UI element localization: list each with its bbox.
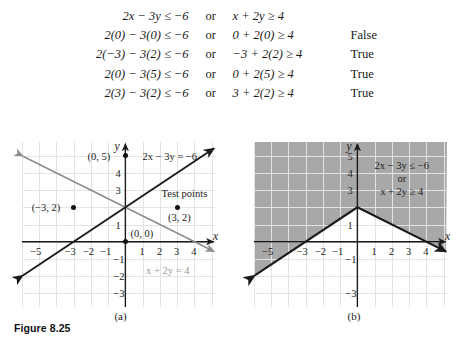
figure-panel-a: −5−3−2−11234431−1−2−3 (0, 5)(−3, 2)(0, 0…: [8, 128, 233, 318]
derivation-left-expression: 2x − 3y ≤ −6: [96, 6, 189, 25]
derivation-left-expression: 2(3) − 3(2) ≤ −6: [96, 84, 189, 103]
x-tick-1: 1: [140, 247, 145, 258]
derivation-connector: or: [189, 25, 233, 44]
x-tick--2: −2: [83, 247, 94, 258]
derivation-result: False: [351, 25, 377, 44]
x-tick-4: 4: [423, 247, 428, 258]
derivation-result: True: [351, 45, 377, 64]
x-tick-1: 1: [372, 247, 377, 258]
figure-caption: Figure 8.25: [14, 322, 71, 334]
x-tick--1: −1: [100, 247, 111, 258]
y-axis-label-a: y: [114, 140, 119, 152]
region-equation-block: 2x − 3y ≤ −6 or x + 2y ≥ 4: [375, 160, 429, 198]
derivation-right-expression: x + 2y ≥ 4: [233, 6, 351, 25]
point-label: (0, 5): [87, 152, 110, 163]
derivation-right-expression: 0 + 2(0) ≥ 4: [233, 25, 351, 44]
y-tick--2: −2: [113, 272, 124, 283]
figure-panel-b: −5−3−2−112345431−1−3 y x 2x − 3y ≤ −6 or…: [240, 128, 468, 318]
derivation-left-expression: 2(0) − 3(0) ≤ −6: [96, 25, 189, 44]
x-tick--5: −5: [30, 247, 41, 258]
y-tick--1: −1: [113, 255, 124, 266]
x-tick--3: −3: [65, 247, 76, 258]
y-tick-1: 1: [115, 221, 120, 232]
derivation-connector: or: [189, 84, 233, 103]
table-row: 2(0) − 3(0) ≤ −6 or 0 + 2(0) ≥ 4 False: [96, 25, 377, 44]
derivation-right-expression: 0 + 2(5) ≥ 4: [233, 64, 351, 83]
derivation-table-body: 2x − 3y ≤ −6 or x + 2y ≥ 4 2(0) − 3(0) ≤…: [96, 6, 377, 103]
derivation-table: 2x − 3y ≤ −6 or x + 2y ≥ 4 2(0) − 3(0) ≤…: [0, 6, 473, 103]
x-tick--3: −3: [297, 247, 308, 258]
x-axis-label-b: x: [445, 230, 450, 242]
y-tick-4: 4: [115, 169, 120, 180]
x-tick-3: 3: [406, 247, 411, 258]
derivation-result: True: [351, 84, 377, 103]
region-inequality-1: 2x − 3y ≤ −6: [375, 160, 429, 173]
equation-label-line2: x + 2y = 4: [146, 265, 189, 278]
y-axis-label-b: y: [346, 140, 351, 152]
point-label: (−3, 2): [32, 203, 61, 214]
x-tick--1: −1: [332, 247, 343, 258]
plot-area-a: −5−3−2−11234431−1−2−3 (0, 5)(−3, 2)(0, 0…: [22, 142, 215, 307]
derivation-connector: or: [189, 6, 233, 25]
point-label: (0, 0): [130, 229, 153, 240]
point-marker: [175, 205, 180, 210]
panel-b-caption: (b): [240, 310, 468, 322]
derivation-right-expression: 3 + 2(2) ≥ 4: [233, 84, 351, 103]
derivation-left-expression: 2(0) − 3(5) ≤ −6: [96, 64, 189, 83]
table-row: 2x − 3y ≤ −6 or x + 2y ≥ 4: [96, 6, 377, 25]
y-tick-5: 5: [347, 152, 352, 163]
table-row: 2(0) − 3(5) ≤ −6 or 0 + 2(5) ≥ 4 True: [96, 64, 377, 83]
equation-label-line1: 2x − 3y = −6: [143, 151, 198, 164]
panel-a-caption: (a): [8, 310, 233, 322]
y-tick--3: −3: [113, 289, 124, 300]
x-tick--2: −2: [315, 247, 326, 258]
y-tick-4: 4: [347, 169, 352, 180]
y-tick-3: 3: [347, 186, 352, 197]
derivation-left-expression: 2(−3) − 3(2) ≤ −6: [96, 45, 189, 64]
region-connector: or: [375, 173, 429, 186]
y-tick-3: 3: [115, 186, 120, 197]
y-tick-1: 1: [347, 221, 352, 232]
x-tick-2: 2: [389, 247, 394, 258]
point-marker: [71, 205, 76, 210]
x-tick-3: 3: [174, 247, 179, 258]
y-tick--3: −3: [345, 289, 356, 300]
derivation-connector: or: [189, 45, 233, 64]
plot-area-b: −5−3−2−112345431−1−3 y x 2x − 3y ≤ −6 or…: [254, 142, 447, 307]
x-tick-2: 2: [157, 247, 162, 258]
derivation-right-expression: −3 + 2(2) ≥ 4: [233, 45, 351, 64]
table-row: 2(−3) − 3(2) ≤ −6 or −3 + 2(2) ≥ 4 True: [96, 45, 377, 64]
table-row: 2(3) − 3(2) ≤ −6 or 3 + 2(2) ≥ 4 True: [96, 84, 377, 103]
x-tick-4: 4: [191, 247, 196, 258]
derivation-result: True: [351, 64, 377, 83]
y-tick--1: −1: [345, 255, 356, 266]
derivation-connector: or: [189, 64, 233, 83]
x-tick--5: −5: [262, 247, 273, 258]
derivation-result: [351, 6, 377, 25]
test-points-label: Test points: [162, 188, 208, 201]
region-inequality-2: x + 2y ≥ 4: [375, 186, 429, 199]
point-label: (3, 2): [168, 213, 191, 224]
x-axis-label-a: x: [213, 230, 218, 242]
